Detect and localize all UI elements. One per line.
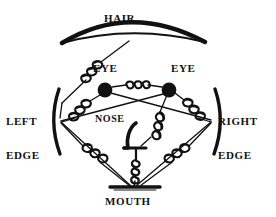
- spring-right-edge-to-mouth: [140, 123, 211, 186]
- hair-label: HAIR: [104, 13, 135, 24]
- eye-left-label: EYE: [93, 63, 117, 74]
- left-edge-label-line2: EDGE: [6, 150, 40, 161]
- right-edge-label-line1: RIGHT: [218, 116, 258, 127]
- eye-right-node-disc: [162, 83, 177, 98]
- eye-left-node-disc: [98, 83, 113, 98]
- spring-eye-to-eye: [112, 81, 162, 88]
- right-edge-label: RIGHT EDGE: [218, 94, 258, 184]
- mouth-label: MOUTH: [105, 196, 151, 207]
- mouth-node-bar: [110, 187, 160, 190]
- right-edge-label-line2: EDGE: [218, 150, 258, 161]
- left-edge-label-line1: LEFT: [6, 116, 40, 127]
- nose-node-glyph: [124, 123, 146, 160]
- spring-face-diagram: HAIR EYE EYE LEFT EDGE RIGHT EDGE NOSE M…: [0, 0, 276, 217]
- spring-nose-to-mouth: [131, 160, 139, 186]
- spring-eye-right-to-right-edge: [175, 93, 211, 122]
- left-edge-node-bracket: [54, 89, 60, 154]
- eye-right-label: EYE: [171, 63, 195, 74]
- spring-left-edge-to-mouth: [61, 123, 130, 186]
- spring-hair-to-left-edge: [60, 41, 129, 118]
- nose-label: NOSE: [95, 114, 125, 124]
- left-edge-label: LEFT EDGE: [6, 94, 40, 184]
- hair-node-arc: [62, 22, 205, 43]
